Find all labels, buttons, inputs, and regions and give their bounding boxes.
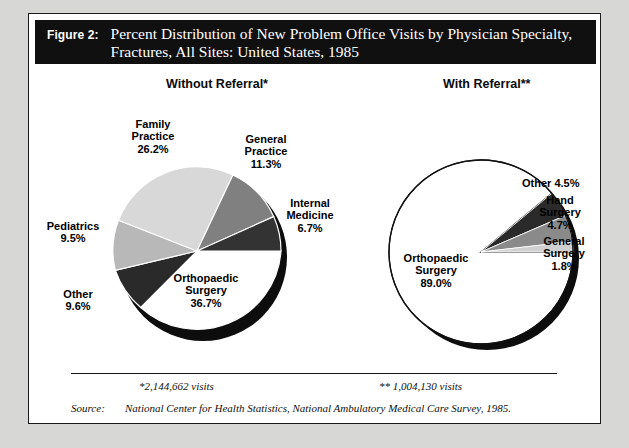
right-label-orthopaedic-surgery: Orthopaedic Surgery 89.0% [384, 252, 488, 289]
left-label-orthopaedic-surgery-line3: 36.7% [190, 297, 221, 309]
right-label-orthopaedic-surgery-line2: Surgery [415, 264, 457, 276]
figure-title: Percent Distribution of New Problem Offi… [111, 24, 573, 61]
right-label-other-line1: Other 4.5% [522, 177, 579, 189]
left-label-other-line2: 9.6% [65, 300, 90, 312]
left-label-general-practice-line3: 11.3% [251, 158, 282, 170]
left-label-family-practice-line3: 26.2% [137, 143, 168, 155]
right-label-hand-surgery-line2: Surgery [539, 206, 581, 218]
figure-title-line-1: Percent Distribution of New Problem Offi… [111, 25, 573, 43]
right-label-hand-surgery-line3: 4.7% [547, 219, 572, 231]
left-label-internal-medicine-line2: Medicine [286, 209, 333, 221]
left-label-orthopaedic-surgery: Orthopaedic Surgery 36.7% [152, 272, 260, 309]
source-label: Source: [71, 402, 125, 414]
right-label-orthopaedic-surgery-line3: 89.0% [420, 277, 451, 289]
footnote-divider [71, 373, 557, 374]
left-label-other-line1: Other [63, 288, 92, 300]
right-label-hand-surgery: Hand Surgery 4.7% [526, 194, 594, 231]
left-label-internal-medicine: Internal Medicine 6.7% [271, 197, 349, 234]
left-label-general-practice-line1: General [246, 133, 287, 145]
left-label-family-practice-line2: Practice [132, 130, 175, 142]
source-text: National Center for Health Statistics, N… [125, 402, 511, 414]
figure-panel: Figure 2: Percent Distribution of New Pr… [28, 13, 601, 424]
source-row: Source:National Center for Health Statis… [71, 402, 571, 414]
left-label-orthopaedic-surgery-line2: Surgery [185, 284, 227, 296]
right-label-general-surgery-line2: Surgery [543, 247, 585, 259]
charts-container: Family Practice 26.2% General Practice 1… [29, 70, 600, 366]
right-label-general-surgery: General Surgery 1.8% [530, 235, 598, 272]
footnote-without-referral: *2,144,662 visits [139, 380, 214, 392]
left-label-internal-medicine-line3: 6.7% [297, 222, 322, 234]
footnote-with-referral: ** 1,004,130 visits [379, 380, 462, 392]
left-label-internal-medicine-line1: Internal [290, 197, 330, 209]
right-label-general-surgery-line1: General [544, 235, 585, 247]
figure-number-label: Figure 2: [47, 24, 99, 44]
right-label-hand-surgery-line1: Hand [546, 194, 574, 206]
left-label-family-practice-line1: Family [136, 118, 171, 130]
left-label-family-practice: Family Practice 26.2% [107, 118, 199, 155]
right-label-general-surgery-line3: 1.8% [551, 260, 576, 272]
right-label-orthopaedic-surgery-line1: Orthopaedic [404, 252, 469, 264]
left-label-general-practice: General Practice 11.3% [220, 133, 312, 170]
left-label-general-practice-line2: Practice [245, 145, 288, 157]
left-label-orthopaedic-surgery-line1: Orthopaedic [174, 272, 239, 284]
figure-title-line-2: Fractures, All Sites: United States, 198… [111, 43, 573, 61]
left-label-pediatrics: Pediatrics 9.5% [37, 220, 109, 245]
right-label-other: Other 4.5% [522, 177, 600, 189]
left-label-pediatrics-line1: Pediatrics [47, 220, 100, 232]
left-label-other: Other 9.6% [47, 288, 109, 313]
left-label-pediatrics-line2: 9.5% [60, 232, 85, 244]
figure-title-bar: Figure 2: Percent Distribution of New Pr… [35, 20, 596, 64]
